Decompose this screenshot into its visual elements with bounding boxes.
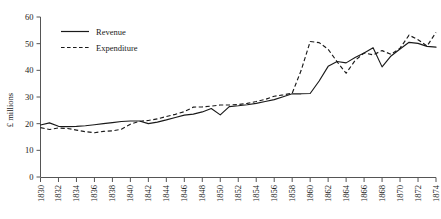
chart-container: 0102030405060 £ millions 183018321834183… xyxy=(0,0,441,219)
x-axis-tick-labels: 1830183218341836183818401842184418461848… xyxy=(36,184,441,202)
y-tick-label: 50 xyxy=(25,39,34,49)
x-tick-label: 1852 xyxy=(233,185,243,202)
x-tick-label: 1844 xyxy=(161,184,171,202)
y-tick-label: 10 xyxy=(25,145,34,155)
x-tick-label: 1838 xyxy=(107,185,117,202)
x-axis-group: 1830183218341836183818401842184418461848… xyxy=(36,178,441,203)
y-tick-label: 60 xyxy=(25,12,34,22)
x-tick-label: 1832 xyxy=(53,185,63,202)
x-tick-label: 1866 xyxy=(359,185,369,202)
x-tick-label: 1848 xyxy=(197,185,207,202)
x-tick-label: 1834 xyxy=(71,184,81,202)
legend-label-revenue: Revenue xyxy=(96,27,126,37)
x-tick-label: 1864 xyxy=(341,184,351,202)
x-tick-label: 1840 xyxy=(125,185,135,202)
x-tick-label: 1830 xyxy=(36,185,46,202)
y-axis-tick-labels: 0102030405060 xyxy=(25,12,34,182)
series-line-revenue xyxy=(41,42,437,126)
x-tick-label: 1872 xyxy=(413,185,423,202)
x-tick-label: 1860 xyxy=(305,185,315,202)
y-tick-label: 30 xyxy=(25,92,34,102)
line-chart: 0102030405060 £ millions 183018321834183… xyxy=(0,0,441,219)
x-tick-label: 1874 xyxy=(431,184,441,202)
x-tick-label: 1850 xyxy=(215,185,225,202)
x-tick-label: 1858 xyxy=(287,185,297,202)
x-tick-label: 1856 xyxy=(269,185,279,202)
y-tick-label: 40 xyxy=(25,65,34,75)
x-tick-label: 1868 xyxy=(377,185,387,202)
x-tick-label: 1862 xyxy=(323,185,333,202)
y-tick-label: 0 xyxy=(29,172,33,182)
chart-legend: Revenue Expenditure xyxy=(61,27,138,53)
y-axis-ticks xyxy=(37,17,41,177)
legend-label-expenditure: Expenditure xyxy=(96,43,138,53)
x-tick-label: 1854 xyxy=(251,184,261,202)
x-tick-label: 1846 xyxy=(179,185,189,202)
x-tick-label: 1870 xyxy=(395,185,405,202)
y-tick-label: 20 xyxy=(25,119,34,129)
y-axis-group: 0102030405060 £ millions xyxy=(5,12,41,182)
x-axis-ticks xyxy=(41,178,437,183)
x-tick-label: 1836 xyxy=(89,185,99,202)
y-axis-title: £ millions xyxy=(5,93,15,127)
x-tick-label: 1842 xyxy=(143,185,153,202)
